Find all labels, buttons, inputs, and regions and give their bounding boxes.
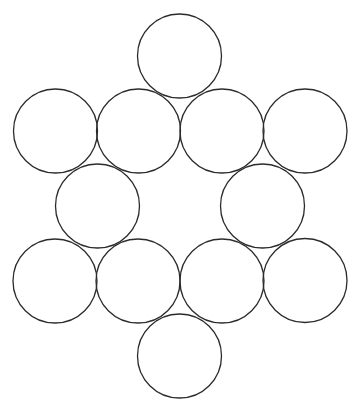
diagram-canvas: [0, 0, 360, 414]
circles-diagram: [0, 0, 360, 414]
background: [0, 0, 360, 414]
